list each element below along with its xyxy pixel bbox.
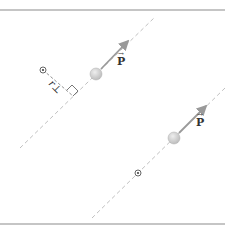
scenario-2 (92, 88, 225, 218)
origin-icon (40, 67, 46, 73)
particle-ball (168, 132, 180, 144)
momentum-label-1: → P (117, 56, 125, 67)
vector-arrow-icon: → (118, 51, 124, 58)
right-angle-marker (67, 85, 78, 96)
momentum-label-2: → P (196, 117, 204, 128)
trajectory-line (20, 17, 155, 148)
particle-ball (90, 68, 102, 80)
scenario-1 (20, 17, 155, 148)
vector-arrow-icon: → (197, 112, 203, 119)
origin-icon (135, 170, 141, 176)
